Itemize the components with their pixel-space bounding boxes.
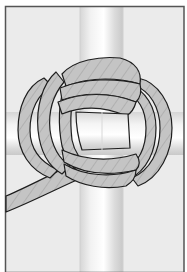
knot-center-window (76, 112, 130, 150)
knot-illustration: Monkey's fist knot (0, 0, 187, 272)
knot-drawing (0, 0, 187, 272)
